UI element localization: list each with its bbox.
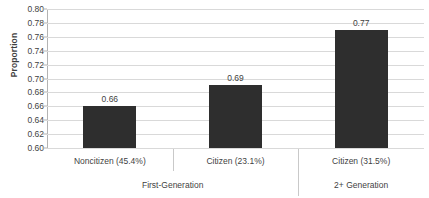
y-axis-tick-label: 0.78	[14, 18, 44, 28]
category-label: Noncitizen (45.4%)	[74, 156, 146, 166]
y-axis-tick-label: 0.68	[14, 87, 44, 97]
y-axis-tick-mark	[43, 50, 47, 51]
bar[interactable]	[209, 85, 262, 148]
y-axis-tick-label: 0.64	[14, 115, 44, 125]
y-axis-tick-mark	[43, 64, 47, 65]
y-axis-tick-mark	[43, 92, 47, 93]
y-axis-tick-mark	[43, 36, 47, 37]
bar[interactable]	[83, 106, 136, 148]
y-axis-tick-label: 0.76	[14, 32, 44, 42]
bar-value-label: 0.66	[102, 94, 119, 104]
y-axis-tick-label: 0.66	[14, 101, 44, 111]
y-axis-tick-label: 0.74	[14, 46, 44, 56]
bar[interactable]	[335, 30, 388, 148]
bar-value-label: 0.69	[227, 73, 244, 83]
y-axis-tick-label: 0.72	[14, 60, 44, 70]
y-axis-tick-mark	[43, 22, 47, 23]
y-axis-tick-mark	[43, 9, 47, 10]
y-axis-tick-mark	[43, 134, 47, 135]
category-separator	[173, 149, 174, 171]
category-label: Citizen (23.1%)	[206, 156, 264, 166]
category-axis: Noncitizen (45.4%)Citizen (23.1%)Citizen…	[47, 148, 424, 198]
group-label: First-Generation	[142, 180, 203, 190]
y-axis-tick-label: 0.70	[14, 74, 44, 84]
group-label: 2+ Generation	[334, 180, 388, 190]
y-axis-tick-label: 0.60	[14, 143, 44, 153]
bar-value-label: 0.77	[353, 18, 370, 28]
plot-area: 0.660.690.77	[47, 9, 424, 148]
y-axis-tick-mark	[43, 148, 47, 149]
y-axis-tick-mark	[43, 120, 47, 121]
y-axis-tick-label: 0.62	[14, 129, 44, 139]
category-axis-line	[47, 148, 424, 149]
category-label: Citizen (31.5%)	[332, 156, 390, 166]
y-axis-tick-mark	[43, 106, 47, 107]
y-axis-tick-label: 0.80	[14, 4, 44, 14]
bar-chart: Proportion 0.800.780.760.740.720.700.680…	[0, 0, 429, 198]
y-axis-tick-labels: 0.800.780.760.740.720.700.680.660.640.62…	[14, 0, 44, 198]
y-axis-tick-mark	[43, 78, 47, 79]
group-separator	[298, 149, 299, 196]
gridline	[47, 9, 424, 10]
